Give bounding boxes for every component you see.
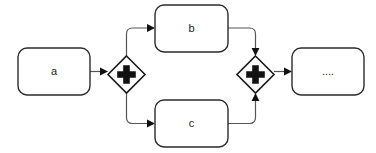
task-node-c[interactable]: c <box>155 100 228 147</box>
sequence-flow-split-to-b <box>127 24 156 56</box>
flow-line <box>127 28 149 56</box>
task-label-c: c <box>189 117 195 129</box>
gateway-node-split[interactable] <box>108 56 145 93</box>
task-node-next[interactable]: .... <box>292 48 364 95</box>
task-label-a: a <box>51 65 58 77</box>
diagram-svg-surface: a b c .... <box>0 0 376 153</box>
task-label-next: .... <box>322 65 334 77</box>
sequence-flow-join-to-next <box>274 68 292 76</box>
flow-line <box>127 93 149 124</box>
sequence-flow-split-to-c <box>127 93 156 127</box>
flow-line <box>228 28 256 49</box>
sequence-flow-c-to-join <box>228 93 259 124</box>
bpmn-diagram-canvas: a b c .... <box>0 0 376 153</box>
sequence-flow-b-to-join <box>228 28 259 56</box>
task-label-b: b <box>188 22 194 34</box>
flow-line <box>228 100 256 124</box>
gateway-node-join[interactable] <box>237 56 274 93</box>
task-node-a[interactable]: a <box>18 48 90 95</box>
flow-arrowhead <box>100 68 108 76</box>
flow-arrowhead <box>252 93 260 101</box>
task-node-b[interactable]: b <box>155 5 228 52</box>
flow-arrowhead <box>252 48 260 56</box>
flow-arrowhead <box>147 120 155 128</box>
sequence-flow-a-to-split <box>90 68 108 76</box>
flow-arrowhead <box>284 68 292 76</box>
flow-arrowhead <box>147 24 155 32</box>
